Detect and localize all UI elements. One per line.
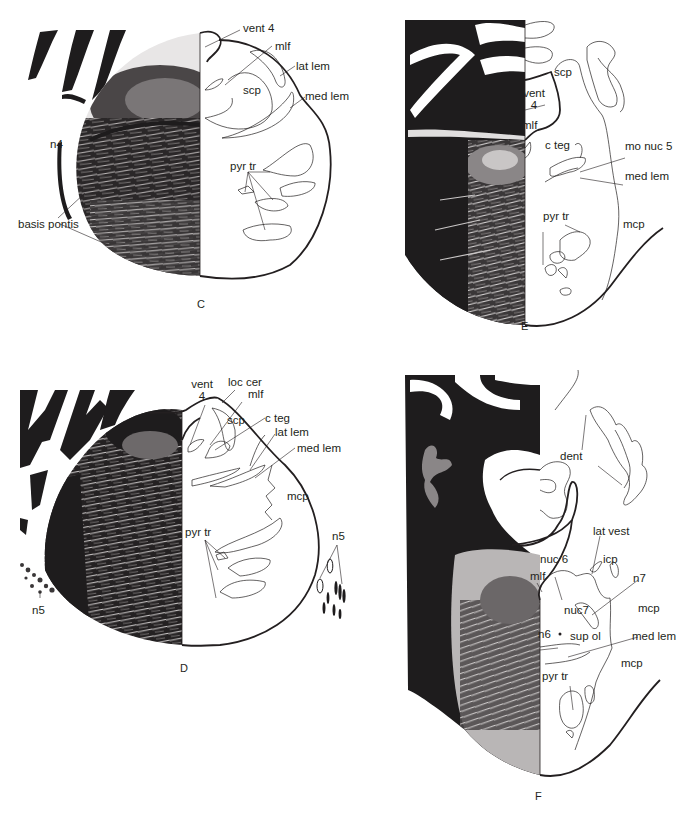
- panel-c: vent 4 mlf lat lem scp med lem n4 pyr tr…: [0, 0, 360, 320]
- label-mcp: mcp: [623, 218, 645, 230]
- panel-c-drawing: [0, 0, 360, 320]
- panel-d-drawing: [0, 370, 360, 710]
- label-med-lem: med lem: [305, 90, 349, 102]
- label-nuc6: nuc 6: [540, 553, 568, 565]
- panel-letter-c: C: [197, 298, 205, 310]
- label-scp: scp: [554, 66, 572, 78]
- label-lat-lem: lat lem: [296, 60, 330, 72]
- label-med-lem: med lem: [625, 170, 669, 182]
- label-c-teg: c teg: [545, 139, 570, 151]
- label-vent-number: 4: [520, 99, 548, 111]
- label-vent4: vent 4: [243, 22, 274, 34]
- panel-f-drawing: [380, 370, 695, 816]
- panel-letter-e: E: [521, 320, 528, 332]
- label-pyr-tr: pyr tr: [543, 210, 569, 222]
- label-dent: dent: [560, 450, 582, 462]
- label-n5-left: n5: [32, 604, 45, 616]
- label-mcp-lower: mcp: [621, 657, 643, 669]
- label-lat-lem: lat lem: [275, 426, 309, 438]
- panel-e: scp vent 4 mlf c teg mo nuc 5 med lem py…: [380, 0, 695, 340]
- panel-d: vent 4 loc cer mlf scp c teg lat lem med…: [0, 370, 360, 710]
- label-mlf: mlf: [248, 388, 263, 400]
- label-pyr-tr: pyr tr: [185, 526, 211, 538]
- label-c-teg: c teg: [265, 412, 290, 424]
- label-mcp-upper: mcp: [638, 602, 660, 614]
- label-pyr-tr: pyr tr: [542, 670, 568, 682]
- label-nuc7: nuc7: [564, 604, 589, 616]
- panel-letter-d: D: [180, 662, 188, 674]
- label-n5-right: n5: [332, 530, 345, 542]
- label-mlf: mlf: [530, 570, 545, 582]
- label-med-lem: med lem: [632, 630, 676, 642]
- label-scp: scp: [227, 414, 245, 426]
- label-scp: scp: [243, 84, 261, 96]
- label-lat-vest: lat vest: [593, 525, 629, 537]
- label-med-lem: med lem: [297, 442, 341, 454]
- label-n6: n6: [538, 628, 551, 640]
- label-n4: n4: [50, 138, 63, 150]
- label-mlf: mlf: [275, 40, 290, 52]
- label-vent: vent: [188, 378, 216, 390]
- label-mo-nuc5: mo nuc 5: [625, 140, 672, 152]
- label-mcp: mcp: [287, 490, 309, 502]
- label-vent: vent: [520, 87, 548, 99]
- panel-letter-f: F: [535, 790, 542, 802]
- label-icp: icp: [603, 553, 618, 565]
- label-loc-cer: loc cer: [228, 376, 262, 388]
- label-basis-pontis: basis pontis: [18, 218, 79, 230]
- label-sup-ol: sup ol: [570, 630, 601, 642]
- label-n7: n7: [633, 572, 646, 584]
- label-pyr-tr: pyr tr: [230, 160, 256, 172]
- label-vent-number: 4: [188, 390, 216, 402]
- label-mlf: mlf: [522, 119, 537, 131]
- panel-f: dent lat vest nuc 6 icp mlf n7 nuc7 mcp …: [380, 370, 695, 816]
